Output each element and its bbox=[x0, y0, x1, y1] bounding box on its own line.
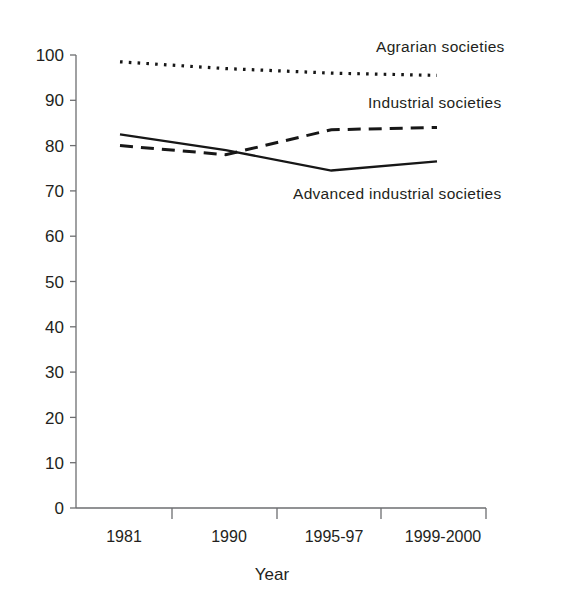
y-tick-label: 30 bbox=[45, 363, 64, 382]
y-tick-label: 70 bbox=[45, 182, 64, 201]
y-tick-label: 60 bbox=[45, 227, 64, 246]
x-tick-label: 1999-2000 bbox=[405, 528, 482, 545]
series-label-industrial-societies: Industrial societies bbox=[368, 94, 502, 111]
y-tick-label: 40 bbox=[45, 318, 64, 337]
x-tick-label: 1981 bbox=[106, 528, 142, 545]
x-tick-label: 1995-97 bbox=[305, 528, 364, 545]
series-label-advanced-industrial-societies: Advanced industrial societies bbox=[293, 185, 502, 202]
y-tick-label: 0 bbox=[55, 499, 64, 518]
x-tickmarks bbox=[172, 508, 486, 519]
y-tick-labels: 100 90 80 70 60 50 40 30 20 10 0 bbox=[36, 46, 64, 518]
y-tick-label: 100 bbox=[36, 46, 64, 65]
y-tick-label: 50 bbox=[45, 273, 64, 292]
line-chart: 100 90 80 70 60 50 40 30 20 10 0 1981 19… bbox=[0, 0, 569, 602]
y-tick-label: 10 bbox=[45, 454, 64, 473]
x-tick-labels: 1981 1990 1995-97 1999-2000 bbox=[106, 528, 481, 545]
y-tickmarks bbox=[70, 55, 76, 508]
y-tick-label: 80 bbox=[45, 137, 64, 156]
chart-canvas: 100 90 80 70 60 50 40 30 20 10 0 1981 19… bbox=[0, 0, 569, 602]
series-label-agrarian-societies: Agrarian societies bbox=[376, 38, 505, 55]
y-tick-label: 90 bbox=[45, 91, 64, 110]
series-line-advanced-industrial-societies bbox=[120, 134, 437, 170]
x-tick-label: 1990 bbox=[211, 528, 247, 545]
y-tick-label: 20 bbox=[45, 409, 64, 428]
x-axis-title: Year bbox=[255, 565, 290, 584]
series-line-agrarian-societies bbox=[120, 62, 437, 76]
